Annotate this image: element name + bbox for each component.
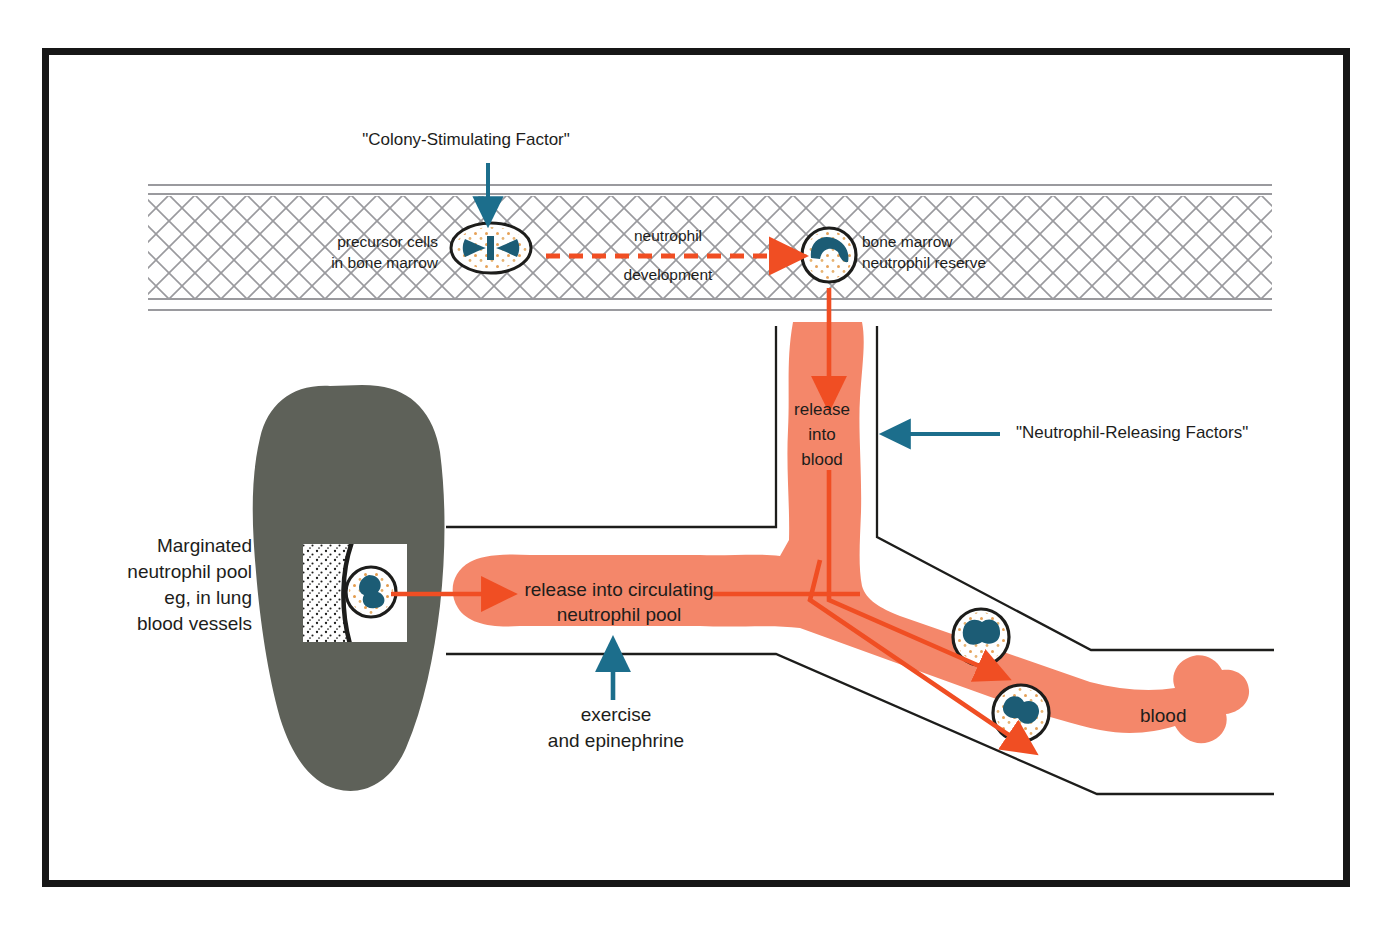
bone-marrow-reserve-label-line2: neutrophil reserve <box>862 254 986 273</box>
release-into-blood-label-line3: blood <box>801 450 843 471</box>
release-into-blood-label-line1: release <box>794 400 850 421</box>
page-header-fragment <box>0 0 1389 9</box>
blood-label: blood <box>1140 704 1187 727</box>
exercise-label-line1: exercise <box>581 703 652 726</box>
colony-stimulating-factor-label: "Colony-Stimulating Factor" <box>362 130 570 151</box>
precursor-cells-label-line1: precursor cells <box>337 233 438 252</box>
exercise-label-line2: and epinephrine <box>548 729 684 752</box>
marginated-pool-label-line4: blood vessels <box>137 612 252 635</box>
release-circulating-label-line2: neutrophil pool <box>557 603 682 626</box>
release-circulating-label-line1: release into circulating <box>524 578 713 601</box>
figure-page: "Colony-Stimulating Factor" precursor ce… <box>0 0 1389 932</box>
neutrophil-releasing-factors-label: "Neutrophil-Releasing Factors" <box>1016 423 1248 444</box>
release-into-blood-label-line2: into <box>808 425 835 446</box>
marginated-pool-label-line2: neutrophil pool <box>127 560 252 583</box>
marginated-pool-label-line1: Marginated <box>157 534 252 557</box>
marginated-pool-label-line3: eg, in lung <box>164 586 252 609</box>
neutrophil-development-label-line2: development <box>624 266 713 285</box>
bone-marrow-reserve-label-line1: bone marrow <box>862 233 952 252</box>
neutrophil-development-label-line1: neutrophil <box>634 227 702 246</box>
figure-frame-border <box>42 48 1350 887</box>
precursor-cells-label-line2: in bone marrow <box>331 254 438 273</box>
